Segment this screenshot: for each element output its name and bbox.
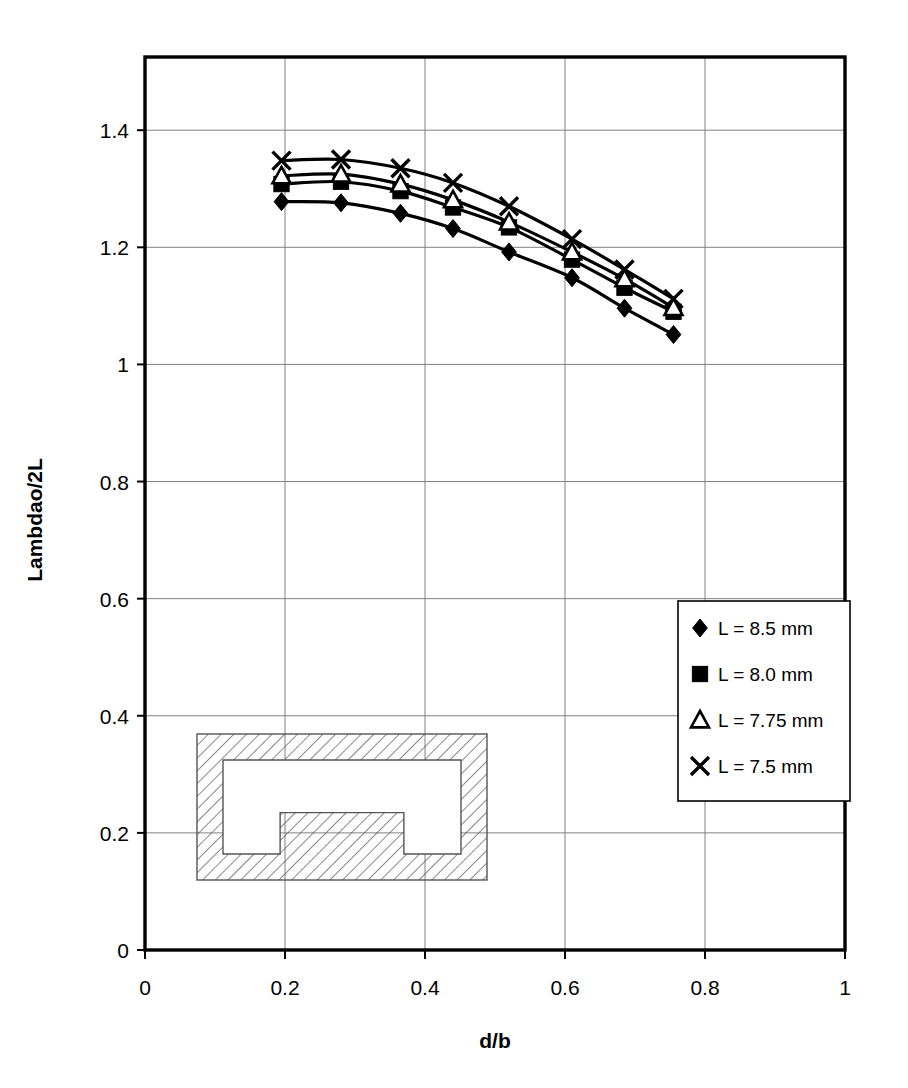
legend-item-label: L = 8.5 mm xyxy=(718,618,813,639)
legend-item-label: L = 7.5 mm xyxy=(718,756,813,777)
chart-legend: L = 8.5 mmL = 8.0 mmL = 7.75 mmL = 7.5 m… xyxy=(678,601,850,801)
y-tick-label: 1.4 xyxy=(100,119,130,142)
y-axis-title: Lambdao/2L xyxy=(23,458,46,582)
y-tick-label: 1.2 xyxy=(100,236,129,259)
y-tick-label: 0.6 xyxy=(100,588,129,611)
x-axis-title: d/b xyxy=(479,1029,511,1052)
x-tick-label: 1 xyxy=(839,976,851,999)
ridged-waveguide-inset xyxy=(197,734,487,880)
x-tick-label: 0.2 xyxy=(270,976,299,999)
x-tick-label: 0 xyxy=(139,976,151,999)
x-tick-label: 0.8 xyxy=(690,976,719,999)
chart-page: 00.20.40.60.811.21.4 00.20.40.60.81 L = … xyxy=(0,0,908,1088)
y-tick-label: 0.8 xyxy=(100,471,129,494)
y-tick-label: 0.2 xyxy=(100,822,129,845)
y-tick-label: 1 xyxy=(117,353,129,376)
x-tick-label: 0.6 xyxy=(550,976,579,999)
marker-square xyxy=(692,666,707,681)
legend-item-label: L = 8.0 mm xyxy=(718,664,813,685)
y-tick-label: 0 xyxy=(117,939,129,962)
chart-background xyxy=(0,0,908,1088)
line-chart: 00.20.40.60.811.21.4 00.20.40.60.81 L = … xyxy=(0,0,908,1088)
x-tick-label: 0.4 xyxy=(410,976,440,999)
y-tick-label: 0.4 xyxy=(100,705,130,728)
legend-item-label: L = 7.75 mm xyxy=(718,710,823,731)
